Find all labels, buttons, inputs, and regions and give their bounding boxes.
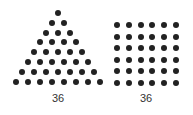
dot <box>138 34 144 40</box>
dot <box>173 57 179 63</box>
dot <box>161 57 167 63</box>
dot <box>126 57 132 63</box>
dot <box>149 68 155 74</box>
dot <box>67 49 73 55</box>
figurate-numbers-diagram: 36 36 <box>0 0 193 115</box>
dot <box>25 59 31 65</box>
dot <box>31 49 37 55</box>
dot <box>61 59 67 65</box>
dot <box>114 80 120 86</box>
square-count-label: 36 <box>140 92 152 104</box>
dot <box>114 22 120 28</box>
dot <box>161 80 167 86</box>
dot <box>49 39 55 45</box>
dot <box>61 39 67 45</box>
dot <box>79 69 85 75</box>
dot <box>173 45 179 51</box>
dot <box>55 69 61 75</box>
dot <box>161 45 167 51</box>
dot <box>73 59 79 65</box>
dot <box>173 80 179 86</box>
dot <box>37 79 43 85</box>
dot <box>114 34 120 40</box>
dot <box>126 45 132 51</box>
dot <box>161 22 167 28</box>
dot <box>79 49 85 55</box>
dot <box>149 34 155 40</box>
dot <box>85 79 91 85</box>
dot <box>114 68 120 74</box>
dot <box>49 20 55 26</box>
dot <box>85 59 91 65</box>
dot <box>55 10 61 16</box>
dot <box>149 45 155 51</box>
dot <box>126 80 132 86</box>
dot <box>173 22 179 28</box>
dot <box>49 59 55 65</box>
dot <box>97 79 103 85</box>
dot <box>126 34 132 40</box>
dot <box>43 49 49 55</box>
dot <box>173 68 179 74</box>
dot <box>19 69 25 75</box>
dot <box>61 20 67 26</box>
dot <box>126 68 132 74</box>
dot <box>67 30 73 36</box>
dot <box>91 69 97 75</box>
dot <box>25 79 31 85</box>
dot <box>49 79 55 85</box>
dot <box>161 34 167 40</box>
dot <box>43 69 49 75</box>
dot <box>138 45 144 51</box>
dot <box>149 57 155 63</box>
dot <box>67 69 73 75</box>
dot <box>126 22 132 28</box>
dot <box>138 57 144 63</box>
dot <box>43 30 49 36</box>
dot <box>138 68 144 74</box>
dot <box>114 45 120 51</box>
dot <box>61 79 67 85</box>
dot <box>13 79 19 85</box>
dot <box>73 79 79 85</box>
dot <box>173 34 179 40</box>
dot <box>37 39 43 45</box>
dot <box>161 68 167 74</box>
dot <box>55 49 61 55</box>
dot <box>149 22 155 28</box>
triangle-count-label: 36 <box>52 92 64 104</box>
dot <box>114 57 120 63</box>
dot <box>138 22 144 28</box>
dot <box>55 30 61 36</box>
dot <box>37 59 43 65</box>
dot <box>149 80 155 86</box>
dot <box>31 69 37 75</box>
dot <box>73 39 79 45</box>
dot <box>138 80 144 86</box>
